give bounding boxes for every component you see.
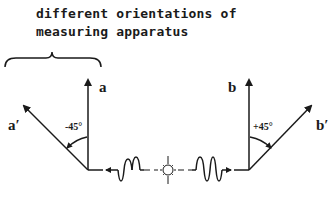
entanglement-diagram: different orientations of measuring appa…	[0, 0, 331, 198]
label-a: a	[99, 79, 107, 95]
angle-label-left: -45°	[65, 121, 82, 132]
wave-packet-left	[106, 157, 158, 181]
wave-packet-right	[178, 157, 231, 181]
angle-label-right: +45°	[253, 121, 273, 132]
right-detector: b b′ +45°	[228, 79, 329, 170]
label-a-prime: a′	[8, 117, 20, 133]
caption-line-2: measuring apparatus	[36, 24, 189, 39]
axis-a-prime-arrow	[24, 106, 88, 170]
curly-brace	[5, 52, 101, 67]
angle-arc-right	[250, 137, 271, 148]
left-detector: a a′ -45°	[8, 79, 107, 170]
caption-line-1: different orientations of	[36, 6, 237, 21]
angle-arc-left	[67, 137, 87, 148]
label-b: b	[228, 79, 236, 95]
light-burst-icon	[160, 156, 176, 184]
axis-b-prime-arrow	[249, 106, 311, 170]
label-b-prime: b′	[316, 117, 329, 133]
